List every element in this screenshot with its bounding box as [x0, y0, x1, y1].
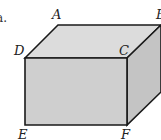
vertex-label-c: C	[119, 43, 129, 58]
front-face	[25, 58, 127, 125]
vertex-label-e: E	[17, 127, 28, 140]
problem-prefix: a.	[0, 11, 7, 25]
prism-diagram: a. A B C D E F	[0, 0, 161, 140]
vertex-label-f: F	[120, 127, 131, 140]
vertex-label-b: B	[155, 7, 161, 22]
vertex-label-a: A	[51, 7, 61, 22]
vertex-label-d: D	[13, 43, 25, 58]
